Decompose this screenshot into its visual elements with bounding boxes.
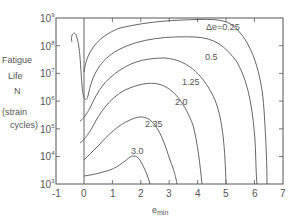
svg-text:0: 0 [81, 188, 87, 199]
svg-text:1: 1 [110, 188, 116, 199]
svg-text:4: 4 [195, 188, 201, 199]
y-tick-labels: 109 108 107 106 105 104 103 [40, 12, 55, 190]
curve-0-5 [71, 33, 257, 184]
x-tick-labels: -1 0 1 2 3 4 5 6 7 [52, 188, 286, 199]
svg-text:107: 107 [40, 67, 55, 79]
curve-label-0-5: 0.5 [205, 52, 218, 62]
y-title-line2: Life [8, 71, 23, 82]
svg-text:109: 109 [40, 12, 55, 24]
curve-3-0 [84, 156, 150, 184]
svg-text:6: 6 [252, 188, 258, 199]
svg-text:2: 2 [138, 188, 144, 199]
svg-text:3: 3 [166, 188, 172, 199]
y-title-line5: cycles) [10, 120, 38, 131]
curve-label-3-0: 3.0 [131, 146, 144, 156]
svg-text:104: 104 [40, 150, 55, 162]
y-title-line4: (strain [2, 107, 27, 118]
y-ticks-left [56, 46, 60, 157]
svg-text:106: 106 [40, 95, 55, 107]
curve-label-1-25: 1.25 [182, 77, 200, 87]
curve-label-2-0: 2.0 [175, 97, 188, 107]
chart-svg: -1 0 1 2 3 4 5 6 7 109 108 107 106 105 1… [0, 0, 295, 223]
svg-text:7: 7 [280, 188, 286, 199]
x-axis-title: emin [152, 205, 168, 216]
y-title-line1: Fatigue [2, 55, 32, 66]
x-ticks-bottom [112, 180, 254, 184]
chart-container: -1 0 1 2 3 4 5 6 7 109 108 107 106 105 1… [0, 0, 295, 223]
svg-text:-1: -1 [52, 188, 61, 199]
curve-label-0-25: Δe=0.25 [206, 22, 240, 32]
curve-label-2-35: 2.35 [145, 119, 163, 129]
y-ticks-right [279, 46, 283, 157]
svg-text:108: 108 [40, 40, 55, 52]
svg-text:105: 105 [40, 123, 55, 135]
y-title-line3: N [14, 86, 21, 97]
svg-text:5: 5 [223, 188, 229, 199]
